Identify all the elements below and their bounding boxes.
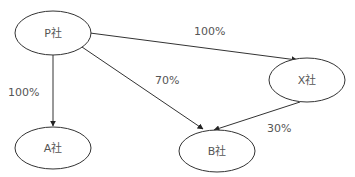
edge-p-to-b xyxy=(82,47,203,129)
node-a: A社 xyxy=(15,127,91,169)
node-p-label: P社 xyxy=(44,26,62,40)
edge-label-p-a: 100% xyxy=(8,86,39,99)
node-b-label: B社 xyxy=(208,144,227,158)
node-p: P社 xyxy=(15,11,91,55)
edge-label-x-b: 30% xyxy=(267,122,291,135)
node-x: X社 xyxy=(269,58,345,102)
ownership-diagram: P社 A社 B社 X社 100% 70% 100% 30% xyxy=(0,0,355,177)
node-x-label: X社 xyxy=(298,73,317,87)
edge-label-p-b: 70% xyxy=(155,74,179,87)
node-a-label: A社 xyxy=(44,141,63,155)
edge-label-p-x: 100% xyxy=(194,25,225,38)
node-b: B社 xyxy=(179,130,255,172)
